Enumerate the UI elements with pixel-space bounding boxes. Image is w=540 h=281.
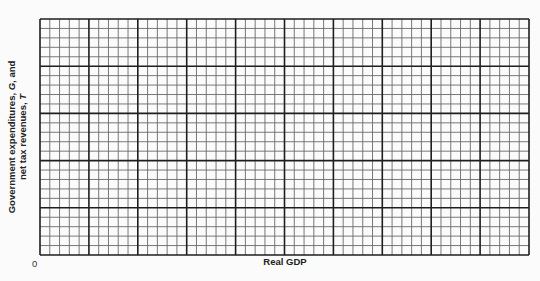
graph-grid xyxy=(0,0,540,281)
y-axis-label-part: , and xyxy=(6,61,17,83)
y-axis-label-part: Government expenditures, xyxy=(6,90,17,213)
y-axis-label-var-g: G xyxy=(6,83,17,90)
y-axis-label-part: net tax revenues, xyxy=(17,100,28,180)
origin-label: 0 xyxy=(32,258,37,269)
x-axis-label: Real GDP xyxy=(240,256,330,267)
y-axis-label-var-t: T xyxy=(17,94,28,100)
major-grid-lines xyxy=(40,19,529,255)
